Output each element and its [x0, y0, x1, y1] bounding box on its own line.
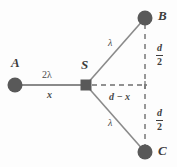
node-label-c: C [158, 144, 167, 157]
node-s-marker [81, 80, 92, 91]
label-x: x [47, 90, 52, 100]
node-label-a: A [11, 56, 20, 69]
label-lambda-upper: λ [108, 38, 112, 48]
edge-s-b [86, 18, 145, 85]
label-d-over-2-upper: d 2 [156, 43, 163, 67]
diagram-canvas [0, 0, 177, 167]
node-label-b: B [158, 9, 167, 22]
label-two-lambda: 2λ [42, 70, 52, 80]
label-d-over-2-lower: d 2 [156, 108, 163, 132]
d-over-2-upper-denominator: 2 [156, 57, 163, 68]
d-over-2-lower-denominator: 2 [156, 122, 163, 133]
node-c-marker [138, 145, 153, 160]
d-over-2-lower-numerator: d [156, 108, 163, 119]
label-d-minus-x: d − x [109, 92, 130, 102]
label-lambda-lower: λ [108, 118, 112, 128]
interference-diagram: A S B C 2λ x λ λ d − x d 2 d 2 [0, 0, 177, 167]
node-a-marker [8, 78, 23, 93]
node-b-marker [138, 11, 153, 26]
node-label-s: S [81, 58, 88, 71]
d-over-2-upper-numerator: d [156, 43, 163, 54]
